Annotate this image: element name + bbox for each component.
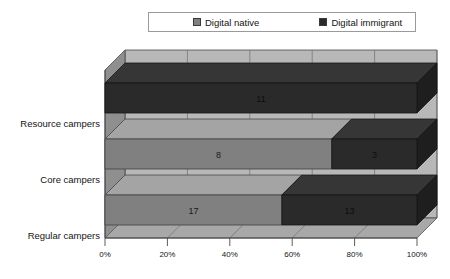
legend-swatch-digital-native-icon [193,18,201,26]
legend-label-digital-native: Digital native [205,17,259,28]
bar-group-resource-campers [105,63,437,113]
bar-segment-core-campers-0-top [105,119,352,139]
bar-segment-resource-campers-1-top [105,63,437,83]
chart-legend: Digital native Digital immigrant [148,12,416,32]
bar-segment-resource-campers-1-front [105,83,417,113]
bar-segment-regular-campers-0-front [105,195,282,225]
legend-entry-digital-native: Digital native [193,17,259,28]
y-axis-label-core-campers: Core campers [4,174,100,185]
y-axis-category-labels: Resource campersCore campersRegular camp… [0,36,100,246]
bar-group-core-campers [105,119,437,169]
bar-segment-core-campers-0-front [105,139,332,169]
bar-segment-regular-campers-0-top [105,175,302,195]
y-axis-label-regular-campers: Regular campers [4,230,100,241]
bar-segment-regular-campers-1-front [282,195,417,225]
bar-segment-regular-campers-1-top [282,175,437,195]
legend-swatch-digital-immigrant-icon [319,18,327,26]
bar-segment-core-campers-1-front [332,139,417,169]
bar-group-regular-campers [105,175,437,225]
legend-entry-digital-immigrant: Digital immigrant [319,17,402,28]
y-axis-label-resource-campers: Resource campers [4,118,100,129]
legend-label-digital-immigrant: Digital immigrant [331,17,402,28]
